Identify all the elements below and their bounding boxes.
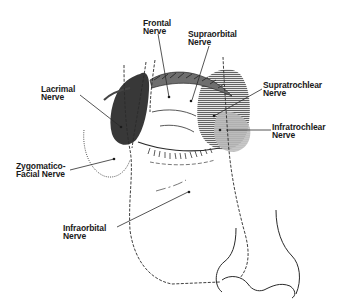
label-lacrimal-nerve: Lacrimal Nerve: [41, 85, 75, 101]
label-supraorbital-nerve: Supraorbital Nerve: [188, 30, 237, 46]
eyelid-nerve-diagram: [0, 0, 343, 302]
lower-lid-line: [150, 160, 215, 165]
label-infraorbital-nerve: Infraorbital Nerve: [63, 224, 106, 240]
eyelashes: [148, 148, 212, 159]
label-supratrochlear-nerve: Supratrochlear Nerve: [263, 81, 322, 97]
eyelid-crease-upper: [152, 110, 196, 116]
label-infratrochlear-nerve: Infratrochlear Nerve: [272, 123, 325, 139]
infraorbital-marks: [156, 180, 186, 191]
nose-outline: [216, 210, 299, 298]
eyelid-crease-lower: [160, 125, 194, 132]
eyelid-margin: [138, 142, 220, 151]
lacrimal-region: [110, 73, 149, 145]
label-zygomaticofacial-nerve: Zygomatico- Facial Nerve: [16, 162, 65, 178]
label-frontal-nerve: Frontal Nerve: [143, 19, 171, 35]
